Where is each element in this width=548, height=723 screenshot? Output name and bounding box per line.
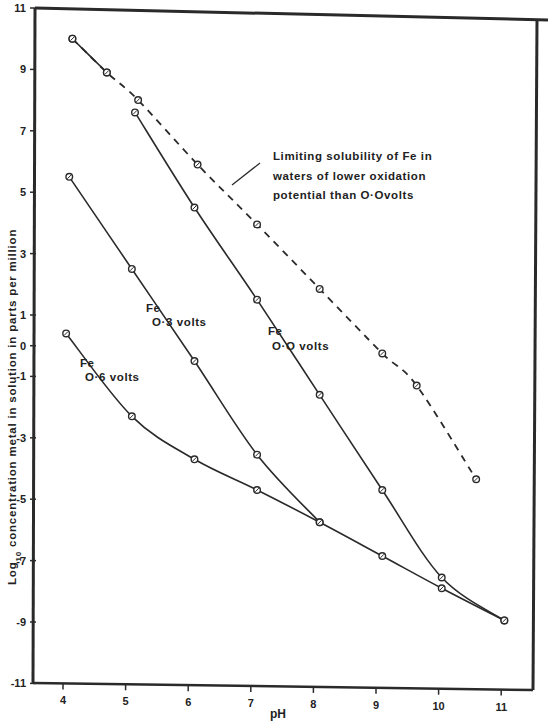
label-fe-06-a: Fe <box>80 357 95 369</box>
y-axis-label: Log10 concentration metal in solution in… <box>6 229 23 585</box>
x-tick-label: 8 <box>310 698 316 710</box>
label-fe-03-b: O·3 volts <box>152 316 207 328</box>
x-tick-label: 5 <box>123 695 129 707</box>
label-fe-03-a: Fe <box>146 302 161 314</box>
y-tick-label: 0 <box>20 340 26 352</box>
label-fe-06-b: O·6 volts <box>85 371 140 383</box>
y-tick-label: -11 <box>11 677 26 689</box>
note-line-3: potential than O·Ovolts <box>273 189 414 201</box>
label-fe-00-b: O·O volts <box>272 340 329 352</box>
y-tick-label: 1 <box>20 309 26 321</box>
x-tick-label: 9 <box>373 699 379 711</box>
note-line-2: waters of lower oxidation <box>272 170 426 182</box>
series-line <box>72 39 106 73</box>
svg-text:Log10 concentration metal in: Log10 concentration metal in solution in… <box>6 229 23 585</box>
x-tick-label: 11 <box>495 701 507 713</box>
x-tick-label: 7 <box>248 697 254 709</box>
x-tick-label: 4 <box>60 694 67 706</box>
y-tick-label: -9 <box>16 616 26 628</box>
y-tick-label: 3 <box>20 248 26 260</box>
x-axis-label: pH <box>270 707 286 721</box>
y-tick-label: 7 <box>20 125 26 137</box>
label-fe-00-a: Fe <box>268 325 283 337</box>
y-tick-label: 11 <box>14 2 26 14</box>
y-tick-label: 9 <box>20 63 26 75</box>
note-line-1: Limiting solubility of Fe in <box>273 150 432 162</box>
x-tick-label: 6 <box>185 696 191 708</box>
y-tick-label: 5 <box>20 186 26 198</box>
data-series <box>63 35 508 623</box>
x-tick-label: 10 <box>432 700 444 712</box>
callout-leader <box>232 163 260 185</box>
solubility-chart: 11975310-1-3-5-7-9-11 4567891011 Limitin… <box>0 0 548 723</box>
